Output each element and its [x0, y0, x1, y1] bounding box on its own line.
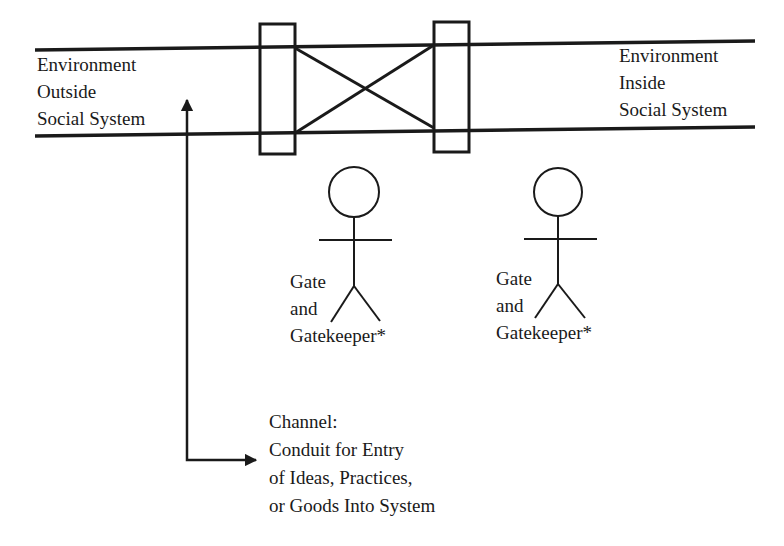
- label-line: Environment: [37, 51, 145, 78]
- label-line: and: [496, 292, 592, 319]
- gatekeeper-1-label: Gate and Gatekeeper*: [290, 268, 386, 349]
- environment-inside-label: Environment Inside Social System: [619, 42, 727, 123]
- label-line: Outside: [37, 78, 145, 105]
- label-line: Gate: [496, 265, 592, 292]
- label-line: Environment: [619, 42, 727, 69]
- label-line: Gatekeeper*: [496, 319, 592, 346]
- cross-line-up: [295, 45, 434, 133]
- gatekeeper-2-label: Gate and Gatekeeper*: [496, 265, 592, 346]
- label-line: of Ideas, Practices,: [269, 464, 435, 492]
- label-line: Inside: [619, 69, 727, 96]
- label-line: Channel:: [269, 408, 435, 436]
- elbow-arrow-icon: [187, 100, 256, 460]
- label-line: Social System: [37, 105, 145, 132]
- label-line: or Goods Into System: [269, 492, 435, 520]
- label-line: and: [290, 295, 386, 322]
- channel-label: Channel: Conduit for Entry of Ideas, Pra…: [269, 408, 435, 520]
- label-line: Social System: [619, 96, 727, 123]
- label-line: Gate: [290, 268, 386, 295]
- label-line: Gatekeeper*: [290, 322, 386, 349]
- label-line: Conduit for Entry: [269, 436, 435, 464]
- environment-outside-label: Environment Outside Social System: [37, 51, 145, 132]
